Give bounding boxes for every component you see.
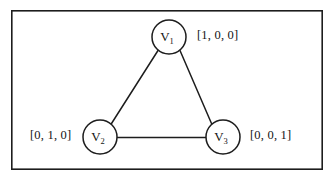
graph-figure: V1 V2 V3 [1, 0, 0] [0, 1, 0] [0, 0, 1] — [0, 0, 334, 182]
edge-v1-v3 — [180, 51, 212, 124]
graph-canvas: V1 V2 V3 — [0, 0, 334, 182]
vector-label-v3: [0, 0, 1] — [250, 128, 291, 143]
vector-label-v1: [1, 0, 0] — [197, 28, 238, 43]
vector-label-v2: [0, 1, 0] — [30, 128, 71, 143]
edge-v1-v2 — [112, 51, 159, 124]
